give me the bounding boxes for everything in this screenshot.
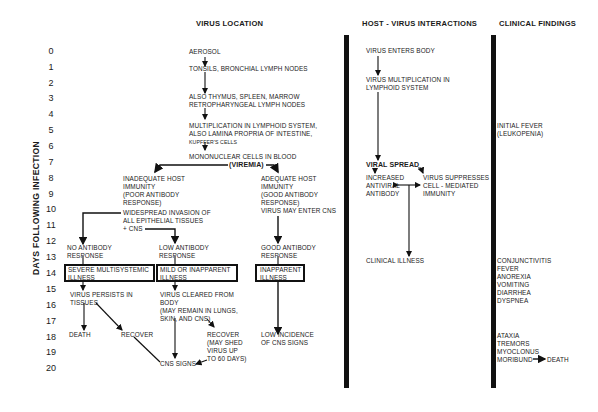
finding-dyspnea: DYSPNEA [497,297,528,305]
finding-vomiting: VOMITING [497,281,529,289]
node-widespread-line3: + CNS [123,225,143,233]
node-mononuclear: MONONUCLEAR CELLS IN BLOOD [189,153,296,161]
node-good-antibody-line2: RESPONSE [261,252,297,260]
node-inadequate-line2: IMMUNITY [123,183,155,191]
box-mild-line2: ILLNESS [160,274,187,282]
node-suppresses-line2: CELL - MEDIATED [423,182,478,190]
finding-ataxia: ATAXIA [497,332,519,340]
node-persists-line2: TISSUES [70,299,98,307]
node-no-antibody-line2: RESPONSE [67,252,103,260]
node-tonsils: TONSILS, BRONCHIAL LYMPH NODES [189,65,308,73]
node-recover-shed-line4: TO 60 DAYS) [207,355,247,363]
finding-moribund: MORIBUND [497,356,533,364]
node-adequate-line5: VIRUS MAY ENTER CNS [261,207,336,215]
node-increased-line1: INCREASED [366,174,404,182]
node-clinical-illness: CLINICAL ILLNESS [366,257,424,265]
box-inapparent-line1: INAPPARENT [260,266,301,274]
node-adequate-line4: RESPONSE) [261,199,300,207]
finding-initial-fever-line2: (LEUKOPENIA) [497,130,543,138]
node-low-antibody-line2: RESPONSE [159,252,195,260]
finding-fever: FEVER [497,265,519,273]
node-thymus-line1: ALSO THYMUS, SPLEEN, MARROW [189,93,300,101]
node-recover-shed-line2: (MAY SHED [207,339,243,347]
node-widespread-line1: WIDESPREAD INVASION OF [123,209,211,217]
node-adequate-line3: (GOOD ANTIBODY [261,191,318,199]
node-no-antibody-line1: NO ANTIBODY [67,244,112,252]
node-aerosol: AEROSOL [189,48,221,56]
node-persists-line1: VIRUS PERSISTS IN [70,291,133,299]
node-death: DEATH [69,331,91,339]
box-severe-line2: ILLNESS [68,274,95,282]
node-recover-shed-line3: VIRUS UP [207,347,238,355]
node-adequate-line1: ADEQUATE HOST [261,175,317,183]
node-widespread-line2: ALL EPITHELIAL TISSUES [123,217,203,225]
node-viral-spread: VIRAL SPREAD [366,161,419,169]
node-viremia: (VIREMIA) [229,161,264,169]
node-multiplication-line3: KUPFFER'S CELLS [189,138,237,146]
box-severe-line1: SEVERE MULTISYSTEMIC [68,266,149,274]
finding-conjunctivitis: CONJUNCTIVITIS [497,257,551,265]
node-recover-shed-line1: RECOVER [207,331,239,339]
node-increased-line3: ANTIBODY [366,190,399,198]
node-increased-line2: ANTIVIRAL [366,182,400,190]
node-multiplication-line1: MULTIPLICATION IN LYMPHOID SYSTEM, [189,122,317,130]
node-thymus-line2: RETROPHARYNGEAL LYMPH NODES [189,101,305,109]
finding-initial-fever-line1: INITIAL FEVER [497,122,543,130]
node-inadequate-line4: RESPONSE) [123,199,162,207]
node-cleared-line4: SKIN, AND CNS) [160,315,210,323]
node-suppresses-line3: IMMUNITY [423,190,455,198]
node-virus-multiplication-line1: VIRUS MULTIPLICATION IN [366,76,450,84]
node-cleared-line1: VIRUS CLEARED FROM [160,291,234,299]
node-cns-signs: CNS SIGNS [160,360,196,368]
node-inadequate-line1: INADEQUATE HOST [123,175,185,183]
finding-myoclonus: MYOCLONUS [497,348,539,356]
finding-death: DEATH [547,356,569,364]
node-adequate-line2: IMMUNITY [261,183,293,191]
node-low-incidence-line2: OF CNS SIGNS [261,339,308,347]
node-multiplication-line2: ALSO LAMINA PROPRIA OF INTESTINE, [189,130,312,138]
node-low-antibody-line1: LOW ANTIBODY [159,244,209,252]
node-suppresses-line1: VIRUS SUPPRESSES [423,174,489,182]
box-mild-line1: MILD OR INAPPARENT [160,266,231,274]
node-low-incidence-line1: LOW INCIDENCE [261,331,314,339]
node-virus-multiplication-line2: LYMPHOID SYSTEM [366,84,428,92]
finding-tremors: TREMORS [497,340,530,348]
node-recover: RECOVER [121,331,153,339]
node-inadequate-line3: (POOR ANTIBODY [123,191,179,199]
box-inapparent-line2: ILLNESS [260,274,287,282]
finding-anorexia: ANOREXIA [497,273,531,281]
node-cleared-line3: (MAY REMAIN IN LUNGS, [160,307,238,315]
node-virus-enters: VIRUS ENTERS BODY [366,47,435,55]
node-good-antibody-line1: GOOD ANTIBODY [261,244,316,252]
finding-diarrhea: DIARRHEA [497,289,531,297]
node-cleared-line2: BODY [160,299,179,307]
